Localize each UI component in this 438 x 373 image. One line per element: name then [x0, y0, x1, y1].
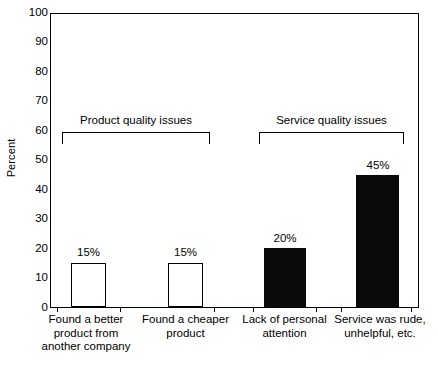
- bar-value-service-was-rude: 45%: [348, 159, 408, 171]
- bracket-product-quality: [62, 132, 210, 144]
- y-tick-80: 80: [22, 66, 48, 77]
- y-tick-0: 0: [22, 302, 48, 313]
- bar-service-was-rude: [356, 175, 399, 307]
- y-tick-60: 60: [22, 125, 48, 136]
- category-line: another company: [26, 340, 146, 354]
- y-tick-50: 50: [22, 154, 48, 165]
- x-tick-6: [411, 307, 412, 312]
- y-tick-30: 30: [22, 213, 48, 224]
- x-tick-4: [316, 307, 317, 312]
- y-tick-40: 40: [22, 184, 48, 195]
- category-label-service-was-rude: Service was rude, unhelpful, etc.: [322, 313, 438, 340]
- y-tick-70: 70: [22, 95, 48, 106]
- y-tick-20: 20: [22, 243, 48, 254]
- x-tick-5: [341, 307, 342, 312]
- category-line: Found a cheaper: [128, 313, 243, 327]
- x-tick-1: [120, 307, 121, 312]
- category-line: unhelpful, etc.: [322, 327, 438, 341]
- bar-lack-of-personal-attention: [264, 248, 306, 307]
- y-tick-100: 100: [22, 7, 48, 18]
- x-tick-0: [57, 307, 58, 312]
- bar-chart: Percent 100 90 80 70 60 50 40 30 20 10 0…: [0, 0, 438, 373]
- category-label-found-cheaper-product: Found a cheaper product: [128, 313, 243, 340]
- category-line: product: [128, 327, 243, 341]
- bar-value-found-cheaper-product: 15%: [156, 246, 215, 258]
- x-tick-2: [214, 307, 215, 312]
- category-line: Service was rude,: [322, 313, 438, 327]
- bar-value-lack-of-personal-attention: 20%: [255, 232, 315, 244]
- bar-value-found-better-product: 15%: [59, 246, 118, 258]
- y-axis-title: Percent: [5, 123, 17, 193]
- bracket-service-quality: [259, 132, 404, 144]
- bar-found-better-product: [71, 263, 106, 307]
- x-tick-3: [253, 307, 254, 312]
- y-tick-90: 90: [22, 36, 48, 47]
- bracket-label-product-quality: Product quality issues: [62, 114, 210, 126]
- y-tick-10: 10: [22, 272, 48, 283]
- plot-area: Product quality issues Service quality i…: [50, 13, 419, 308]
- bar-found-cheaper-product: [168, 263, 203, 307]
- bracket-label-service-quality: Service quality issues: [259, 114, 404, 126]
